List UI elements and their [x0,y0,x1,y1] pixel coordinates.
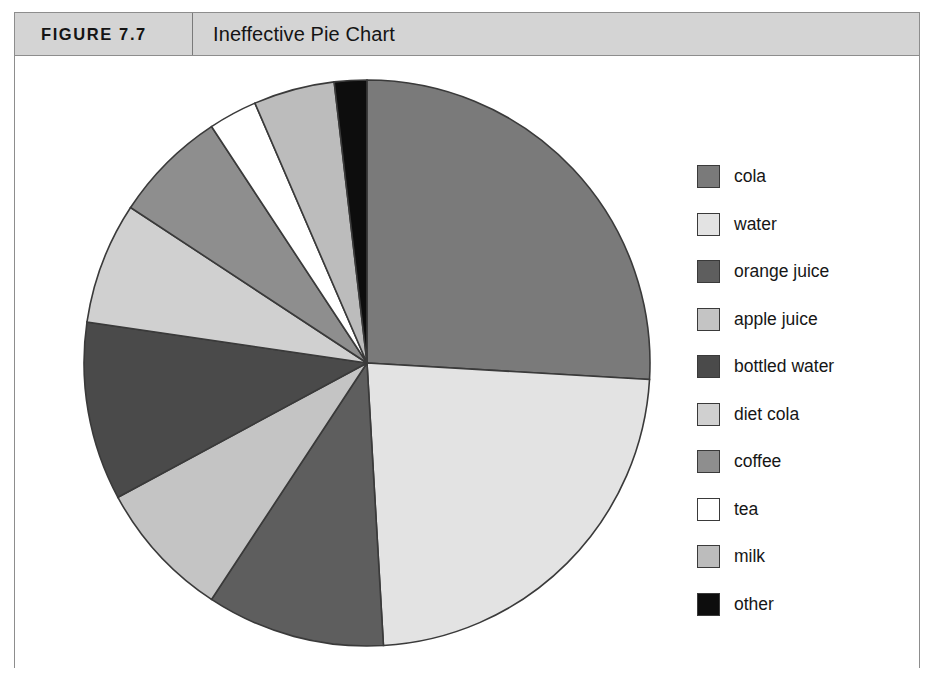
legend-swatch-icon [697,355,720,378]
legend-swatch-icon [697,165,720,188]
pie-slice-group [84,80,650,646]
legend-item-label: apple juice [734,309,818,330]
legend-item: water [697,201,907,249]
legend-item-label: water [734,214,777,235]
legend-item-label: cola [734,166,766,187]
legend-swatch-icon [697,498,720,521]
legend-item-label: orange juice [734,261,829,282]
legend-swatch-icon [697,308,720,331]
legend-swatch-icon [697,260,720,283]
figure-title: Ineffective Pie Chart [193,23,395,46]
pie-chart [79,75,655,651]
pie-slice [367,80,650,379]
legend-item: cola [697,153,907,201]
legend-item: other [697,581,907,629]
legend-item: tea [697,486,907,534]
legend-swatch-icon [697,545,720,568]
legend-item-label: milk [734,546,765,567]
legend-item-label: tea [734,499,758,520]
legend-item-label: other [734,594,774,615]
legend-swatch-icon [697,403,720,426]
legend-item: orange juice [697,248,907,296]
figure-number: FIGURE 7.7 [15,13,193,55]
figure-header: FIGURE 7.7 Ineffective Pie Chart [15,13,919,56]
pie-slice [367,363,650,646]
legend-item-label: bottled water [734,356,834,377]
legend-swatch-icon [697,213,720,236]
legend-item: coffee [697,438,907,486]
legend-item-label: diet cola [734,404,799,425]
chart-legend: colawaterorange juiceapple juicebottled … [697,153,907,628]
legend-swatch-icon [697,593,720,616]
figure-frame: FIGURE 7.7 Ineffective Pie Chart colawat… [14,12,920,668]
legend-item: diet cola [697,391,907,439]
legend-item-label: coffee [734,451,781,472]
legend-item: milk [697,533,907,581]
pie-svg [79,75,655,651]
chart-area: colawaterorange juiceapple juicebottled … [15,57,919,668]
legend-item: bottled water [697,343,907,391]
legend-item: apple juice [697,296,907,344]
legend-swatch-icon [697,450,720,473]
